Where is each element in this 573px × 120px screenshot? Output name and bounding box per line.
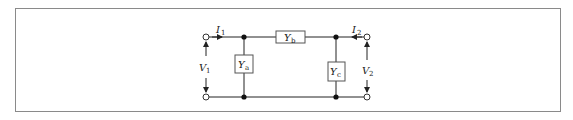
v2-sub: 2 — [369, 70, 373, 78]
terminal-right-bottom — [364, 94, 370, 100]
terminal-right-top — [364, 34, 370, 40]
i2-sub: 2 — [357, 29, 361, 37]
i1-sub: 1 — [221, 29, 225, 37]
yb-sub: b — [291, 37, 296, 45]
junction-dots — [241, 34, 338, 99]
admittance-yc: Y c — [328, 62, 345, 81]
yc-sub: c — [337, 71, 341, 79]
admittance-ya: Y a — [235, 55, 253, 73]
terminal-left-bottom — [203, 94, 209, 100]
shunt-wires — [244, 37, 336, 97]
ya-sub: a — [245, 64, 249, 72]
terminal-left-top — [203, 34, 209, 40]
v1-sub: 1 — [206, 67, 210, 75]
admittance-yb: Y b — [276, 31, 305, 45]
circuit-diagram: Y a Y b Y c I 1 I 2 V 1 V — [0, 0, 573, 120]
